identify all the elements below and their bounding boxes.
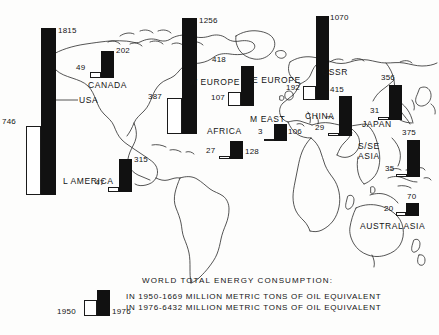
region-label-africa: AFRICA	[207, 127, 242, 136]
bar-china-1950	[328, 133, 339, 136]
region-label-lamerica: L AMERICA	[63, 177, 113, 186]
barpair-ussr: 192 1070	[303, 16, 333, 100]
value-africa-1950: 27	[206, 147, 215, 155]
value-meast-1950: 3	[258, 128, 263, 136]
bar-meast-1976	[274, 124, 287, 141]
caption-block: WORLD TOTAL ENERGY CONSUMPTION: IN 1950-…	[0, 276, 439, 314]
bar-ussr-1950	[303, 86, 316, 100]
bar-australasia-1976	[406, 203, 419, 216]
barpair-eeurope: 107 418	[228, 66, 258, 106]
region-label-sseasia: S/SE ASIA	[358, 141, 384, 161]
value-australasia-1950: 20	[384, 205, 393, 213]
barpair-meast: 3 106	[264, 124, 292, 141]
barpair-ssease-asia: 35 375	[396, 140, 424, 177]
bar-canada-1976	[101, 51, 114, 78]
value-japan-1950: 31	[370, 107, 379, 115]
value-usa-1950: 746	[2, 118, 16, 126]
bar-japan-1976	[389, 85, 402, 120]
region-label-usa: USA	[79, 96, 98, 105]
bar-australasia-1950	[396, 212, 406, 216]
region-label-australasia: AUSTRALASIA	[360, 222, 425, 231]
barpair-africa: 27 128	[219, 141, 247, 159]
value-canada-1976: 202	[116, 47, 130, 55]
value-ussr-1976: 1070	[330, 14, 349, 22]
bar-sseasia-1976	[407, 140, 420, 177]
value-sseasia-1976: 375	[402, 129, 416, 137]
barpair-australasia: 20 70	[396, 203, 424, 216]
barpair-japan: 31 356	[378, 85, 406, 120]
world-energy-cartogram: 746 1815 USA 49 202 CANADA 47 315 L AMER…	[0, 0, 439, 335]
caption-line-1950: IN 1950-1669 MILLION METRIC TONS OF OIL …	[0, 292, 439, 301]
value-canada-1950: 49	[76, 64, 85, 72]
value-australasia-1976: 70	[407, 193, 416, 201]
value-usa-1976: 1815	[58, 27, 77, 35]
value-sseasia-1950: 35	[385, 165, 394, 173]
region-label-canada: CANADA	[88, 81, 127, 90]
value-weurope-1950: 387	[148, 93, 162, 101]
barpair-weurope: 387 1256	[167, 18, 199, 134]
value-weurope-1976: 1256	[199, 17, 218, 25]
value-eeurope-1950: 107	[211, 94, 225, 102]
value-japan-1976: 356	[381, 74, 395, 82]
value-africa-1976: 128	[245, 148, 259, 156]
value-lamerica-1976: 315	[134, 156, 148, 164]
region-label-china: CHINA	[305, 112, 334, 121]
bar-weurope-1976	[182, 18, 197, 134]
bar-usa-1950	[26, 126, 41, 195]
bar-ussr-1976	[316, 16, 329, 100]
bar-usa-1976	[41, 28, 56, 195]
region-label-japan: JAPAN	[362, 120, 392, 129]
bar-africa-1950	[219, 156, 230, 159]
bar-weurope-1950	[167, 98, 182, 134]
barpair-canada: 49 202	[90, 51, 118, 78]
bar-africa-1976	[230, 141, 243, 159]
bar-china-1976	[339, 96, 352, 136]
bar-lamerica-1950	[108, 187, 119, 192]
bar-meast-1950	[264, 139, 274, 141]
value-china-1950: 29	[315, 124, 324, 132]
bar-eeurope-1976	[241, 66, 254, 106]
region-label-meast: M EAST	[250, 115, 285, 124]
value-eeurope-1976: 418	[212, 56, 226, 64]
bar-eeurope-1950	[228, 92, 241, 106]
bar-canada-1950	[90, 72, 101, 78]
region-label-ussr: USSR	[322, 68, 348, 77]
caption-line-1976: IN 1976-6432 MILLION METRIC TONS OF OIL …	[0, 303, 439, 312]
value-china-1976: 415	[330, 86, 344, 94]
bar-sseasia-1950	[396, 174, 407, 177]
bar-lamerica-1976	[119, 159, 132, 192]
value-ussr-1950: 192	[286, 84, 300, 92]
caption-title: WORLD TOTAL ENERGY CONSUMPTION:	[0, 276, 439, 285]
barpair-usa: 746 1815	[26, 28, 58, 195]
value-meast-1976: 106	[288, 128, 302, 136]
